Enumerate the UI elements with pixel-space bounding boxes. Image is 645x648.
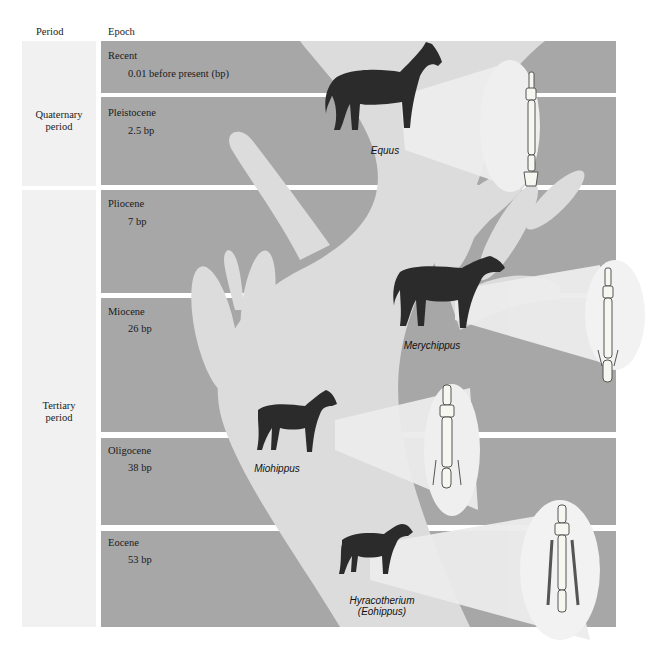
epoch-name-miocene: Miocene	[108, 306, 145, 317]
epoch-date-oligocene: 38 bp	[128, 462, 152, 473]
epoch-date-miocene: 26 bp	[128, 323, 152, 334]
epoch-date-recent: 0.01 before present (bp)	[128, 68, 229, 79]
epoch-name-recent: Recent	[108, 50, 137, 61]
epoch-name-eocene: Eocene	[108, 537, 139, 548]
epoch-date-pleistocene: 2.5 bp	[128, 125, 154, 136]
epoch-date-eocene: 53 bp	[128, 554, 152, 565]
epoch-name-oligocene: Oligocene	[108, 445, 151, 456]
genus-label-equus: Equus	[355, 145, 415, 156]
genus-label-merychippus: Merychippus	[392, 340, 472, 351]
genus-label-miohippus: Miohippus	[242, 463, 312, 474]
epoch-name-pliocene: Pliocene	[108, 198, 144, 209]
epoch-date-pliocene: 7 bp	[128, 216, 146, 227]
epoch-name-pleistocene: Pleistocene	[108, 107, 156, 118]
genus-label-hyracotherium: Hyracotherium (Eohippus)	[332, 595, 432, 617]
evolution-tree-illustration	[0, 0, 645, 648]
